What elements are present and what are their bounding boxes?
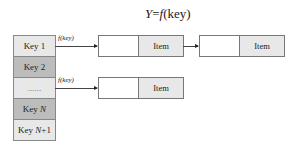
list-node: Item — [98, 35, 184, 57]
item-field: Item — [139, 36, 183, 56]
arrow — [55, 88, 97, 89]
item-field: Item — [139, 78, 183, 98]
key-cell: Key 1 — [14, 36, 55, 57]
pointer-field — [99, 36, 139, 56]
arrow — [183, 46, 198, 47]
key-cell: Key N — [14, 99, 55, 120]
pointer-field — [99, 78, 139, 98]
list-node: Item — [98, 77, 184, 99]
hash-table: Key 1 Key 2 ...... Key N Key N+1 — [13, 35, 56, 141]
key-cell: Key 2 — [14, 57, 55, 78]
hash-function-label: f(key) — [58, 76, 74, 84]
pointer-field — [200, 36, 240, 56]
arrow — [55, 46, 97, 47]
key-cell: ...... — [14, 78, 55, 99]
key-cell: Key N+1 — [14, 120, 55, 140]
item-field: Item — [240, 36, 284, 56]
hash-function-label: f(key) — [58, 34, 74, 42]
list-node: Item — [199, 35, 285, 57]
formula-title: Y=f(key) — [145, 6, 191, 22]
